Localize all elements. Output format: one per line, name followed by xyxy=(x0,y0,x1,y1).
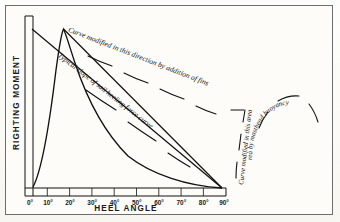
x-tick-label: 30° xyxy=(87,199,97,206)
plot-canvas: RIGHTING MOMENT HEEL ANGLE 0° 10° 20° 30… xyxy=(0,0,340,222)
stability-curve-figure: RIGHTING MOMENT HEEL ANGLE 0° 10° 20° 30… xyxy=(0,0,340,222)
x-tick-label: 80° xyxy=(199,199,209,206)
x-tick-label: 60° xyxy=(154,199,164,206)
x-tick-label: 70° xyxy=(177,199,187,206)
y-axis-label: RIGHTING MOMENT xyxy=(12,55,21,150)
x-axis-label: HEEL ANGLE xyxy=(94,204,157,213)
x-tick-label: 20° xyxy=(65,199,75,206)
annotation-masthead-arc: rea by masthead buoyancy xyxy=(246,99,290,160)
x-axis xyxy=(25,188,226,196)
annotation-sail-underlines xyxy=(86,90,190,167)
x-tick-label: 50° xyxy=(132,199,142,206)
x-tick-label: 10° xyxy=(43,199,53,206)
x-tick-label: 40° xyxy=(110,199,120,206)
annotation-sail-slope: Typical slope of sail heeling force curv… xyxy=(56,51,155,131)
x-tick-label: 90° xyxy=(219,199,229,206)
y-axis xyxy=(25,16,33,196)
fins-modified-line xyxy=(64,29,223,188)
x-tick-label: 0° xyxy=(27,199,34,206)
